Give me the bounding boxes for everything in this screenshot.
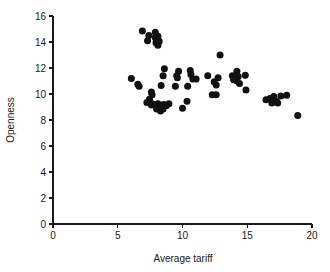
y-tick-label: 6	[40, 141, 46, 152]
y-tick-label: 4	[40, 167, 46, 178]
y-tick-label: 14	[35, 37, 47, 48]
scatter-point	[128, 75, 135, 82]
scatter-point	[209, 91, 216, 98]
scatter-point	[165, 100, 172, 107]
scatter-point	[174, 74, 181, 81]
scatter-point	[242, 72, 249, 79]
scatter-point	[179, 105, 186, 112]
scatter-point	[160, 72, 167, 79]
scatter-point	[242, 87, 249, 94]
x-tick-label: 20	[306, 230, 318, 241]
scatter-point	[184, 83, 191, 90]
x-axis-title: Average tariff	[153, 253, 212, 264]
data-points-layer	[128, 27, 301, 119]
y-tick-label: 12	[35, 63, 47, 74]
scatter-point	[156, 38, 163, 45]
y-tick-label: 2	[40, 193, 46, 204]
y-axis: 0246810121416	[35, 11, 53, 230]
y-axis-title: Openness	[5, 97, 16, 143]
y-tick-label: 0	[40, 219, 46, 230]
scatter-point	[161, 65, 168, 72]
x-tick-label: 10	[177, 230, 189, 241]
scatter-point	[236, 80, 243, 87]
scatter-point	[184, 98, 191, 105]
y-tick-label: 10	[35, 89, 47, 100]
x-tick-label: 5	[115, 230, 121, 241]
scatter-point	[172, 83, 179, 90]
scatter-point	[268, 100, 275, 107]
scatter-point	[193, 76, 200, 83]
scatter-point	[136, 83, 143, 90]
y-tick-label: 16	[35, 11, 47, 22]
scatter-point	[158, 82, 165, 89]
scatter-point	[144, 37, 151, 44]
scatter-point	[294, 112, 301, 119]
x-tick-label: 0	[50, 230, 56, 241]
scatter-point	[153, 105, 160, 112]
scatter-point	[213, 81, 220, 88]
y-tick-label: 8	[40, 115, 46, 126]
x-tick-label: 15	[242, 230, 254, 241]
scatter-point	[217, 52, 224, 59]
x-axis: 05101520	[50, 224, 318, 241]
scatter-point	[139, 27, 146, 34]
plot-canvas: 0246810121416 05101520 Average tariff Op…	[0, 0, 330, 272]
scatter-point	[283, 92, 290, 99]
scatter-plot-figure: 0246810121416 05101520 Average tariff Op…	[0, 0, 330, 272]
scatter-point	[204, 72, 211, 79]
